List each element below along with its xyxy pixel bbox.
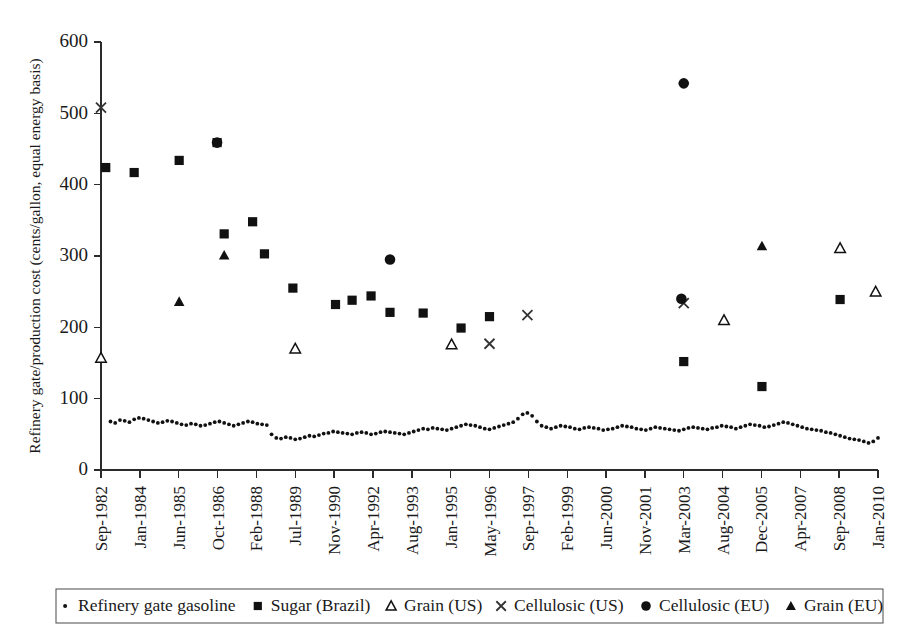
data-point-circle: [385, 254, 396, 265]
data-point-small-dot: [289, 436, 293, 440]
data-point-small-dot: [857, 438, 861, 442]
data-point-small-dot: [393, 431, 397, 435]
data-point-small-dot: [374, 432, 378, 436]
legend-marker-circle: [641, 601, 651, 611]
data-point-small-dot: [327, 431, 331, 435]
x-tick-label: Jan-1984: [131, 486, 150, 549]
data-point-small-dot: [871, 440, 875, 444]
legend-label: Grain (US): [404, 595, 482, 615]
data-point-small-dot: [189, 422, 193, 426]
data-point-small-dot: [360, 430, 364, 434]
data-point-small-dot: [203, 423, 207, 427]
data-point-small-dot: [274, 436, 278, 440]
data-point-small-dot: [379, 430, 383, 434]
data-point-small-dot: [521, 412, 525, 416]
data-point-small-dot: [658, 426, 662, 430]
data-point-small-dot: [151, 420, 155, 424]
data-point-small-dot: [848, 437, 852, 441]
data-point-small-dot: [540, 424, 544, 428]
data-point-small-dot: [672, 428, 676, 432]
data-point-small-dot: [502, 423, 506, 427]
data-point-small-dot: [421, 427, 425, 431]
data-point-small-dot: [459, 424, 463, 428]
data-point-small-dot: [601, 428, 605, 432]
data-point-small-dot: [322, 432, 326, 436]
data-point-small-dot: [625, 425, 629, 429]
data-point-square: [348, 296, 357, 305]
data-point-small-dot: [232, 424, 236, 428]
data-point-small-dot: [345, 432, 349, 436]
data-point-small-dot: [165, 419, 169, 423]
data-point-small-dot: [573, 427, 577, 431]
data-point-small-dot: [118, 418, 122, 422]
data-point-small-dot: [331, 430, 335, 434]
data-point-small-dot: [213, 420, 217, 424]
data-point-small-dot: [507, 422, 511, 426]
data-point-small-dot: [180, 422, 184, 426]
data-point-small-dot: [407, 431, 411, 435]
data-point-small-dot: [298, 437, 302, 441]
data-point-small-dot: [341, 431, 345, 435]
data-point-small-dot: [218, 420, 222, 424]
x-tick-label: Mar-2003: [675, 486, 694, 554]
data-point-small-dot: [668, 427, 672, 431]
data-point-small-dot: [113, 421, 117, 425]
data-point-small-dot: [833, 432, 837, 436]
legend-label: Refinery gate gasoline: [78, 595, 236, 615]
data-point-small-dot: [639, 427, 643, 431]
y-tick-label: 400: [60, 173, 89, 194]
data-point-circle: [676, 294, 687, 305]
x-tick-label: Apr-2007: [791, 486, 810, 552]
y-tick-label: 0: [79, 458, 89, 479]
data-point-small-dot: [743, 424, 747, 428]
data-point-square: [220, 229, 229, 238]
data-point-small-dot: [388, 430, 392, 434]
data-point-small-dot: [682, 427, 686, 431]
data-point-small-dot: [810, 427, 814, 431]
data-point-small-dot: [800, 425, 804, 429]
legend-label: Cellulosic (EU): [659, 595, 769, 615]
data-point-small-dot: [170, 420, 174, 424]
data-point-small-dot: [227, 422, 231, 426]
data-point-small-dot: [137, 416, 141, 420]
data-point-small-dot: [772, 423, 776, 427]
x-tick-label: Sep-1982: [92, 486, 111, 551]
data-point-square: [175, 156, 184, 165]
data-point-small-dot: [687, 426, 691, 430]
data-point-small-dot: [109, 420, 113, 424]
data-point-small-dot: [653, 425, 657, 429]
y-tick-label: 300: [60, 244, 89, 265]
data-point-square: [679, 357, 688, 366]
data-point-small-dot: [867, 441, 871, 445]
data-point-small-dot: [123, 419, 127, 423]
data-point-small-dot: [544, 425, 548, 429]
chart-figure: Refinery gate/production cost (cents/gal…: [0, 0, 914, 642]
x-tick-label: Jan-2010: [869, 486, 888, 548]
data-point-small-dot: [222, 421, 226, 425]
data-point-small-dot: [402, 432, 406, 436]
data-point-small-dot: [734, 427, 738, 431]
data-point-small-dot: [317, 433, 321, 437]
data-point-small-dot: [440, 427, 444, 431]
data-point-square: [385, 308, 394, 317]
data-point-small-dot: [563, 425, 567, 429]
data-point-small-dot: [516, 417, 520, 421]
data-point-small-dot: [582, 426, 586, 430]
data-point-small-dot: [265, 423, 269, 427]
data-point-small-dot: [161, 420, 165, 424]
data-point-small-dot: [454, 425, 458, 429]
data-point-small-dot: [336, 430, 340, 434]
data-point-small-dot: [241, 421, 245, 425]
data-point-square: [331, 300, 340, 309]
data-point-small-dot: [862, 440, 866, 444]
data-point-small-dot: [691, 425, 695, 429]
x-tick-label: Jun-1985: [170, 486, 189, 549]
x-tick-label: Feb-1988: [247, 486, 266, 551]
data-point-small-dot: [308, 434, 312, 438]
data-point-square: [130, 168, 139, 177]
data-point-small-dot: [777, 422, 781, 426]
data-point-small-dot: [478, 425, 482, 429]
data-point-small-dot: [260, 422, 264, 426]
data-point-small-dot: [511, 420, 515, 424]
data-point-small-dot: [620, 424, 624, 428]
